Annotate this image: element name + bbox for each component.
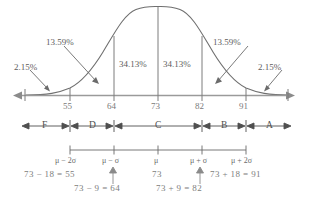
axis-tick-label-73: 73 xyxy=(151,102,160,111)
leader-left-outer xyxy=(64,46,96,81)
sigma-label-minus-1sigma: μ − σ xyxy=(102,157,119,165)
grade-arrow-f-left xyxy=(22,123,29,129)
percent-label-left-outer: 13.59% xyxy=(46,38,74,47)
equation-mean: 73 xyxy=(152,170,162,179)
grade-label-b: B xyxy=(221,121,227,131)
percent-label-right-inner: 34.13% xyxy=(163,60,191,69)
percent-label-right-outer: 13.59% xyxy=(213,38,241,47)
normal-distribution-figure: 2.15% 13.59% 34.13% 34.13% 13.59% 2.15% … xyxy=(0,0,310,200)
grade-arrow-b-right xyxy=(238,123,245,129)
axis-tick-label-82: 82 xyxy=(195,102,204,111)
grade-arrow-a-right xyxy=(284,123,291,129)
sigma-label-mu: μ xyxy=(154,157,158,165)
leader-right-outer xyxy=(218,46,248,81)
sigma-label-minus-2sigma: μ − 2σ xyxy=(55,157,76,165)
grade-arrow-d-left xyxy=(71,123,78,129)
leader-right-tail xyxy=(266,70,282,89)
axis-tick-label-55: 55 xyxy=(63,102,72,111)
axis-left-arrowhead xyxy=(13,92,22,100)
grade-arrow-f-right xyxy=(62,123,69,129)
axis-tick-label-91: 91 xyxy=(239,102,248,111)
sigma-label-plus-2sigma: μ + 2σ xyxy=(231,157,252,165)
grade-arrow-a-left xyxy=(247,123,254,129)
grade-arrow-c-left xyxy=(115,123,122,129)
percent-label-right-tail: 2.15% xyxy=(258,63,281,72)
equation-mean-minus-1sigma: 73 − 9 = 64 xyxy=(74,184,120,193)
percent-label-left-inner: 34.13% xyxy=(119,60,147,69)
grade-arrow-b-left xyxy=(203,123,210,129)
grade-label-a: A xyxy=(266,121,273,131)
eq-uparrow-left-head xyxy=(110,167,117,173)
grade-arrow-c-right xyxy=(194,123,201,129)
percent-label-left-tail: 2.15% xyxy=(14,63,37,72)
axis-right-arrowhead xyxy=(286,92,295,100)
grade-label-d: D xyxy=(89,121,96,131)
grade-arrow-d-right xyxy=(106,123,113,129)
equation-mean-plus-1sigma: 73 + 9 = 82 xyxy=(156,184,202,193)
grade-label-c: C xyxy=(155,121,161,131)
grade-label-f: F xyxy=(42,121,47,131)
leader-left-tail xyxy=(30,70,48,89)
eq-uparrow-right-head xyxy=(197,167,204,173)
sigma-label-plus-1sigma: μ + σ xyxy=(190,157,207,165)
equation-mean-minus-2sigma: 73 − 18 = 55 xyxy=(24,170,75,179)
equation-mean-plus-2sigma: 73 + 18 = 91 xyxy=(210,170,261,179)
axis-tick-label-64: 64 xyxy=(107,102,116,111)
